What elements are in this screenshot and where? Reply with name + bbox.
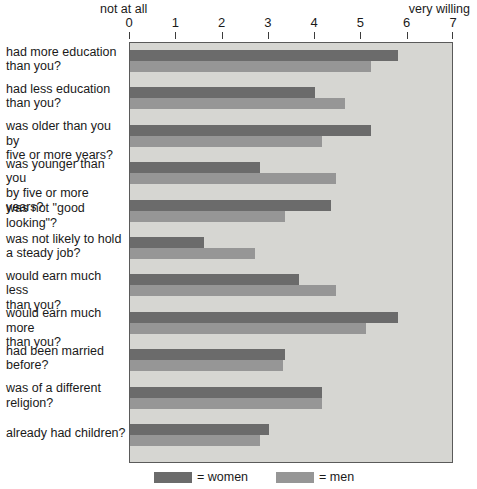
- category-label-line: was not "good looking"?: [6, 201, 126, 230]
- bar-women: [130, 274, 299, 285]
- legend-swatch-women-icon: [154, 472, 192, 483]
- category-label-line: had less education: [6, 82, 126, 97]
- category-label-line: already had children?: [6, 426, 126, 441]
- x-axis: 01234567: [129, 16, 453, 42]
- axis-tick-mark: [129, 32, 130, 39]
- category-label-line: would earn much less: [6, 269, 126, 298]
- bar-men: [130, 98, 345, 109]
- category-label: already had children?: [6, 426, 126, 441]
- bar-women: [130, 424, 269, 435]
- category-label-line: than you?: [6, 96, 126, 111]
- category-label-line: was not likely to hold: [6, 232, 126, 247]
- category-label: was not "good looking"?: [6, 201, 126, 230]
- category-label-line: was older than you by: [6, 119, 126, 148]
- bar-women: [130, 237, 204, 248]
- legend-item-men: = men: [276, 470, 354, 484]
- category-label: had more educationthan you?: [6, 45, 126, 74]
- category-label-line: was of a different: [6, 381, 126, 396]
- axis-left-caption: not at all: [100, 2, 147, 16]
- category-label-line: a steady job?: [6, 246, 126, 261]
- bar-men: [130, 360, 283, 371]
- category-label-line: than you?: [6, 59, 126, 74]
- chart-legend: = women = men: [129, 470, 453, 484]
- axis-tick-label: 7: [449, 16, 456, 30]
- bar-women: [130, 162, 260, 173]
- bar-women: [130, 87, 315, 98]
- category-label: was not likely to holda steady job?: [6, 232, 126, 261]
- horizontal-bar-chart: not at all very willing 01234567 had mor…: [0, 0, 477, 489]
- axis-tick-mark: [175, 32, 176, 39]
- legend-item-women: = women: [154, 470, 248, 484]
- category-label-line: had been married: [6, 344, 126, 359]
- category-label-line: was younger than you: [6, 157, 126, 186]
- legend-swatch-men-icon: [276, 472, 314, 483]
- axis-tick-label: 3: [264, 16, 271, 30]
- bar-women: [130, 200, 331, 211]
- bar-men: [130, 285, 336, 296]
- bar-men: [130, 211, 285, 222]
- axis-tick-mark: [360, 32, 361, 39]
- axis-tick-mark: [222, 32, 223, 39]
- axis-tick-label: 0: [125, 16, 132, 30]
- bar-women: [130, 312, 398, 323]
- axis-tick-mark: [314, 32, 315, 39]
- bar-women: [130, 349, 285, 360]
- category-label-line: religion?: [6, 396, 126, 411]
- category-label: had been marriedbefore?: [6, 344, 126, 373]
- category-label-line: had more education: [6, 45, 126, 60]
- plot-area: [129, 42, 453, 463]
- bar-men: [130, 323, 366, 334]
- axis-tick-mark: [268, 32, 269, 39]
- legend-label-women: = women: [197, 470, 248, 484]
- bar-women: [130, 50, 398, 61]
- axis-tick-label: 4: [311, 16, 318, 30]
- category-label-line: would earn much more: [6, 306, 126, 335]
- axis-tick-label: 6: [403, 16, 410, 30]
- axis-right-caption: very willing: [409, 2, 470, 16]
- bar-men: [130, 435, 260, 446]
- axis-tick-label: 5: [357, 16, 364, 30]
- bar-men: [130, 61, 371, 72]
- axis-tick-label: 1: [172, 16, 179, 30]
- bar-men: [130, 136, 322, 147]
- bar-men: [130, 248, 255, 259]
- category-label-line: before?: [6, 358, 126, 373]
- axis-tick-label: 2: [218, 16, 225, 30]
- category-label: was of a differentreligion?: [6, 381, 126, 410]
- axis-tick-mark: [452, 32, 453, 39]
- bar-women: [130, 387, 322, 398]
- bar-women: [130, 125, 371, 136]
- category-label: had less educationthan you?: [6, 82, 126, 111]
- legend-label-men: = men: [319, 470, 354, 484]
- bar-men: [130, 173, 336, 184]
- axis-tick-mark: [407, 32, 408, 39]
- bar-men: [130, 398, 322, 409]
